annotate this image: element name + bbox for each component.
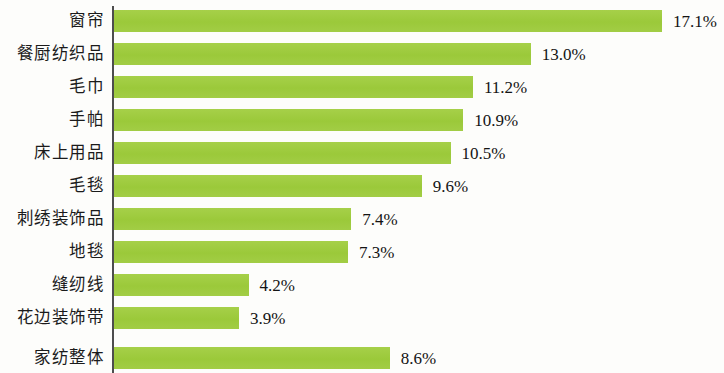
bar [114, 274, 249, 296]
bar-value-label: 7.3% [359, 241, 394, 263]
category-label: 地毯 [0, 241, 104, 263]
bar-row: 家纺整体 8.6% [0, 347, 724, 369]
bar-value-label: 8.6% [401, 347, 436, 369]
category-label: 刺绣装饰品 [0, 208, 104, 230]
bar-row: 缝纫线 4.2% [0, 274, 724, 296]
bar [114, 10, 662, 32]
bar [114, 76, 473, 98]
bar-value-label: 3.9% [250, 307, 285, 329]
bar-chart: 窗帘 17.1% 餐厨纺织品 13.0% 毛巾 11.2% 手帕 10.9% 床… [0, 0, 724, 373]
bar [114, 175, 422, 197]
bar-value-label: 7.4% [362, 208, 397, 230]
plot-area: 窗帘 17.1% 餐厨纺织品 13.0% 毛巾 11.2% 手帕 10.9% 床… [0, 0, 724, 373]
bar [114, 347, 390, 369]
bar-row: 花边装饰带 3.9% [0, 307, 724, 329]
category-label: 家纺整体 [0, 347, 104, 369]
bar-row: 餐厨纺织品 13.0% [0, 43, 724, 65]
bar-row: 手帕 10.9% [0, 109, 724, 131]
category-label: 毛巾 [0, 76, 104, 98]
bar-row: 毛巾 11.2% [0, 76, 724, 98]
bar-value-label: 9.6% [433, 175, 468, 197]
bar [114, 43, 531, 65]
bar [114, 109, 463, 131]
category-label: 缝纫线 [0, 274, 104, 296]
bar-value-label: 11.2% [484, 76, 527, 98]
bar-value-label: 13.0% [542, 43, 586, 65]
category-label: 毛毯 [0, 175, 104, 197]
category-label: 餐厨纺织品 [0, 43, 104, 65]
bar [114, 241, 348, 263]
bar-row: 床上用品 10.5% [0, 142, 724, 164]
bar [114, 307, 239, 329]
bar-row: 刺绣装饰品 7.4% [0, 208, 724, 230]
bar [114, 142, 451, 164]
category-label: 花边装饰带 [0, 307, 104, 329]
bar-value-label: 4.2% [260, 274, 295, 296]
bar-row: 窗帘 17.1% [0, 10, 724, 32]
bar-value-label: 10.9% [474, 109, 518, 131]
bar-value-label: 17.1% [673, 10, 717, 32]
category-label: 窗帘 [0, 10, 104, 32]
bar-row: 毛毯 9.6% [0, 175, 724, 197]
category-label: 床上用品 [0, 142, 104, 164]
bar-value-label: 10.5% [462, 142, 506, 164]
bar [114, 208, 351, 230]
bar-row: 地毯 7.3% [0, 241, 724, 263]
category-label: 手帕 [0, 109, 104, 131]
